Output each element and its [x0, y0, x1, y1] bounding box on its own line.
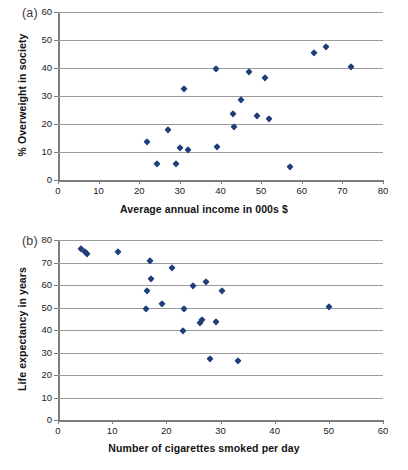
data-point [212, 318, 219, 325]
y-tick-mark [54, 96, 58, 97]
data-point [179, 327, 186, 334]
x-tick-mark [329, 420, 330, 424]
y-tick-label: 60 [26, 7, 52, 17]
y-tick-mark [54, 308, 58, 309]
data-point [176, 144, 183, 151]
data-point [234, 357, 241, 364]
x-tick-mark [342, 180, 343, 184]
y-tick-label: 20 [26, 119, 52, 129]
x-tick-mark [221, 180, 222, 184]
data-point [114, 249, 121, 256]
plot-area-a: 010203040506001020304050607080 [58, 12, 383, 180]
x-tick-label: 0 [46, 426, 70, 436]
y-tick-mark [54, 375, 58, 376]
y-tick-label: 10 [26, 393, 52, 403]
data-point [164, 127, 171, 134]
data-point [144, 138, 151, 145]
data-point [180, 85, 187, 92]
data-point [214, 144, 221, 151]
y-tick-label: 40 [26, 63, 52, 73]
y-tick-label: 10 [26, 147, 52, 157]
data-point [325, 303, 332, 310]
gridline [58, 398, 383, 399]
y-tick-mark [54, 263, 58, 264]
data-point [322, 43, 329, 50]
x-tick-mark [99, 180, 100, 184]
data-point [262, 74, 269, 81]
data-point [147, 275, 154, 282]
gridline [58, 285, 383, 286]
y-tick-mark [54, 353, 58, 354]
y-tick-label: 60 [26, 280, 52, 290]
data-point [180, 305, 187, 312]
data-point [143, 287, 150, 294]
x-tick-mark [302, 180, 303, 184]
y-tick-mark [54, 285, 58, 286]
y-tick-label: 50 [26, 303, 52, 313]
gridline [58, 375, 383, 376]
data-point [218, 287, 225, 294]
x-tick-mark [58, 180, 59, 184]
x-axis-label-a: Average annual income in 000s $ [0, 203, 408, 215]
data-point [213, 66, 220, 73]
data-point [168, 264, 175, 271]
x-tick-label: 20 [154, 426, 178, 436]
data-point [266, 116, 273, 123]
data-point [153, 160, 160, 167]
data-point [347, 63, 354, 70]
x-tick-mark [180, 180, 181, 184]
data-point [143, 305, 150, 312]
x-tick-label: 60 [371, 426, 395, 436]
y-tick-label: 50 [26, 35, 52, 45]
gridline [58, 12, 383, 13]
x-tick-mark [221, 420, 222, 424]
data-point [206, 355, 213, 362]
x-tick-label: 60 [290, 186, 314, 196]
y-tick-label: 80 [26, 235, 52, 245]
data-point [230, 124, 237, 131]
y-tick-mark [54, 124, 58, 125]
y-tick-mark [54, 152, 58, 153]
y-tick-mark [54, 12, 58, 13]
data-point [190, 282, 197, 289]
gridline [58, 308, 383, 309]
x-tick-mark [139, 180, 140, 184]
y-tick-label: 40 [26, 325, 52, 335]
x-tick-mark [261, 180, 262, 184]
data-point [229, 110, 236, 117]
x-tick-mark [275, 420, 276, 424]
data-point [146, 258, 153, 265]
x-tick-label: 50 [249, 186, 273, 196]
x-tick-label: 20 [127, 186, 151, 196]
x-tick-mark [58, 420, 59, 424]
y-tick-mark [54, 40, 58, 41]
y-tick-mark [54, 68, 58, 69]
y-tick-mark [54, 240, 58, 241]
x-tick-label: 50 [317, 426, 341, 436]
x-tick-label: 70 [330, 186, 354, 196]
scatter-chart-b: (b) Life expectancy in years 01020304050… [0, 228, 408, 470]
gridline [58, 124, 383, 125]
x-tick-label: 30 [168, 186, 192, 196]
y-tick-label: 0 [26, 175, 52, 185]
y-tick-mark [54, 330, 58, 331]
data-point [286, 163, 293, 170]
y-tick-label: 70 [26, 258, 52, 268]
x-tick-mark [383, 420, 384, 424]
scatter-chart-a: (a) % Overweight in society 010203040506… [0, 0, 408, 228]
x-tick-label: 80 [371, 186, 395, 196]
y-tick-mark [54, 398, 58, 399]
gridline [58, 68, 383, 69]
x-tick-mark [166, 420, 167, 424]
gridline [58, 40, 383, 41]
gridline [58, 240, 383, 241]
y-tick-label: 30 [26, 91, 52, 101]
y-tick-label: 30 [26, 348, 52, 358]
data-point [310, 49, 317, 56]
data-point [172, 160, 179, 167]
plot-area-b: 010203040506070800102030405060 [58, 240, 383, 420]
y-tick-label: 20 [26, 370, 52, 380]
x-tick-label: 0 [46, 186, 70, 196]
gridline [58, 330, 383, 331]
x-tick-label: 10 [100, 426, 124, 436]
